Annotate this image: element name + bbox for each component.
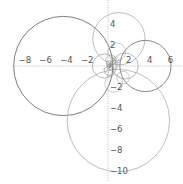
x-tick-label: 6 [168, 55, 173, 65]
y-tick-label: 4 [110, 19, 115, 29]
y-tick-label: −4 [110, 103, 123, 113]
y-tick-label: −6 [110, 124, 123, 134]
x-tick-label: −8 [19, 55, 32, 65]
y-tick-label: −10 [110, 166, 128, 176]
x-axis-tick-labels: −8−6−4−2246 [19, 55, 174, 65]
y-tick-label: −8 [110, 145, 123, 155]
x-tick-label: 4 [147, 55, 152, 65]
y-axis-tick-labels: 42−2−4−6−8−10 [110, 19, 128, 176]
y-tick-label: 2 [110, 40, 115, 50]
x-tick-label: −6 [39, 55, 52, 65]
x-tick-label: −4 [60, 55, 73, 65]
circles-layer [14, 13, 171, 172]
x-tick-label: −2 [81, 55, 94, 65]
circle [93, 13, 145, 65]
x-tick-label: 2 [126, 55, 131, 65]
circle-packing-plot: −8−6−4−2246 42−2−4−6−8−10 [0, 0, 183, 184]
y-tick-label: −2 [110, 82, 123, 92]
